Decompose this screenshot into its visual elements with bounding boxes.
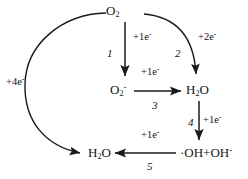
step-number-5: 5 [147,161,153,172]
electron-tag-four-electron-pathway: +4e- [6,76,25,88]
electron-tag-step-5: +1e- [141,129,160,141]
electron-tag-step-4: +1e- [203,114,222,126]
step-number-1: 1 [107,48,113,59]
step-number-3: 3 [152,100,158,111]
node-superoxide: O2- [110,83,126,98]
electron-tag-step-2: +2e- [198,31,217,43]
node-hydroxyl-radical-hydroxide: ·OH+OH- [180,146,232,159]
electron-tag-step-1: +1e- [133,31,152,43]
node-oxygen: O2 [106,4,119,19]
orr-pathway-diagram: O2 O2- H2O ·OH+OH- H2O +1e- +2e- +1e- +1… [0,0,248,179]
electron-tag-step-3: +1e- [141,66,160,78]
step-number-4: 4 [188,117,194,128]
node-hydrogen-peroxide: H2O [186,83,209,98]
step-number-2: 2 [175,48,181,59]
arrow-step-2 [144,14,196,74]
node-water: H2O [88,146,111,161]
arrow-outer-4e [25,13,106,153]
